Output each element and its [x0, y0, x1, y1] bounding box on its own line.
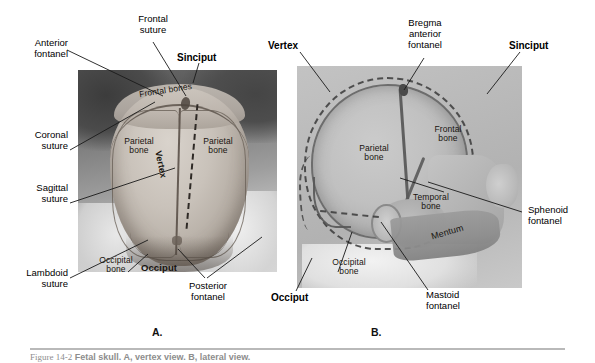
label-line-2: fontanel: [170, 292, 246, 303]
inlabel-temporal-bone-b: Temporal bone: [408, 193, 454, 211]
label-sinciput-a: Sinciput: [177, 52, 216, 63]
label-anterior-fontanel: Anterior fontanel: [6, 38, 68, 60]
label-line-2: fontanel: [528, 216, 592, 227]
label-vertex-b: Vertex: [268, 40, 298, 51]
label-line-2: suture: [6, 194, 68, 205]
label-line-2: suture: [0, 279, 68, 290]
label-line-2: bone: [426, 134, 470, 143]
caption-text: Fetal skull. A, vertex view. B, lateral …: [75, 353, 251, 362]
label-mastoid-fontanel: Mastoid fontanel: [426, 290, 490, 312]
label-lambdoid-suture: Lambdoid suture: [0, 268, 68, 290]
label-line-2: fontanel: [6, 49, 68, 60]
label-sagittal-suture: Sagittal suture: [6, 183, 68, 205]
nose-region: [486, 164, 518, 208]
figure-root: Anterior fontanel Frontal suture Sincipu…: [0, 0, 595, 363]
label-posterior-fontanel: Posterior fontanel: [170, 281, 246, 303]
caption-divider-rule: [30, 348, 565, 350]
label-line-2: bone: [352, 153, 396, 162]
label-line-2: bone: [326, 267, 372, 276]
label-sinciput-b: Sinciput: [509, 40, 548, 51]
label-line-2: suture: [115, 25, 191, 36]
label-line-2: suture: [6, 141, 68, 152]
caption-number: Figure 14-2: [30, 353, 72, 362]
panel-b-photograph: [297, 66, 522, 288]
inlabel-occipital-bone-b: Occipital bone: [326, 258, 372, 276]
label-occiput-b: Occiput: [271, 292, 308, 303]
label-sphenoid-fontanel: Sphenoid fontanel: [528, 205, 592, 227]
inlabel-parietal-bone-right: Parietal bone: [196, 137, 240, 155]
label-line-2: bone: [408, 202, 454, 211]
panel-a-photograph: [78, 70, 277, 272]
inlabel-parietal-bone-b: Parietal bone: [352, 144, 396, 162]
panel-b-letter: B.: [371, 326, 382, 338]
inlabel-occipital-bone-a: Occipital bone: [93, 256, 139, 274]
label-line-2: bone: [196, 146, 240, 155]
inlabel-frontal-bone-b: Frontal bone: [426, 125, 470, 143]
label-frontal-suture: Frontal suture: [115, 14, 191, 36]
figure-caption: Figure 14-2 Fetal skull. A, vertex view.…: [30, 353, 570, 363]
panel-a-letter: A.: [152, 326, 163, 338]
label-coronal-suture: Coronal suture: [6, 130, 68, 152]
label-line-3: fontanel: [392, 40, 458, 51]
label-bregma-anterior-fontanel: Bregma anterior fontanel: [392, 18, 458, 50]
label-line-2: fontanel: [426, 301, 490, 312]
inlabel-occiput-a: Occiput: [141, 263, 177, 273]
label-line-2: bone: [93, 265, 139, 274]
